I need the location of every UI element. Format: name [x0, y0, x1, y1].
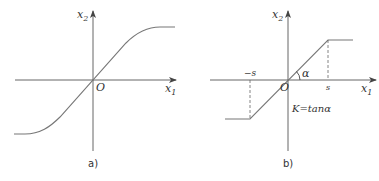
- saturation-curve-linear: [225, 40, 353, 119]
- x2-label-a: x2: [77, 8, 88, 23]
- angle-arc-icon: [297, 72, 301, 81]
- neg-threshold-label: −s: [244, 68, 257, 78]
- saturation-curve-smooth: [14, 27, 175, 134]
- angle-label: α: [302, 67, 310, 80]
- gain-formula: K=tanα: [291, 103, 331, 114]
- caption-a: a): [88, 158, 98, 169]
- panel-a: x2 O x1 a): [14, 8, 176, 169]
- x2-label-b: x2: [272, 8, 283, 23]
- caption-b: b): [283, 158, 293, 169]
- saturation-diagram: x2 O x1 a) x2 O x1 −s s α K=tanα b): [0, 0, 379, 181]
- pos-threshold-label: s: [326, 83, 330, 92]
- panel-b: x2 O x1 −s s α K=tanα b): [210, 8, 376, 169]
- origin-label-b: O: [280, 81, 289, 94]
- x1-label-a: x1: [165, 82, 176, 97]
- x1-label-b: x1: [361, 82, 372, 97]
- origin-label-a: O: [96, 81, 105, 94]
